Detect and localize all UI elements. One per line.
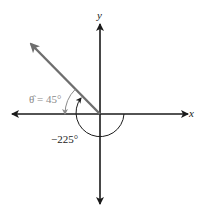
reference-angle-label: θ̂ = 45°	[29, 93, 61, 105]
y-axis-label: y	[96, 9, 102, 21]
reference-angle-arc	[65, 89, 75, 114]
angle-diagram: y x θ̂ = 45° −225°	[0, 0, 199, 211]
x-axis-label: x	[188, 107, 194, 119]
angle-label: −225°	[51, 133, 78, 145]
diagram-canvas: y x θ̂ = 45° −225°	[0, 0, 199, 211]
